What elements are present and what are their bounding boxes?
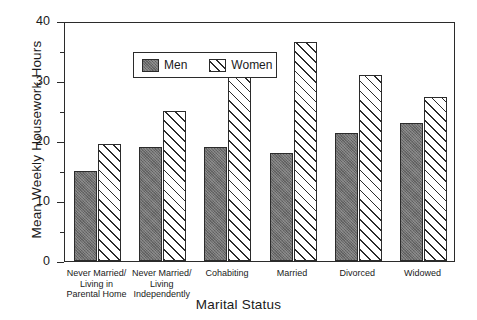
bar-men-2 — [204, 147, 227, 261]
y-tick-mark — [57, 82, 64, 83]
y-tick-label: 20 — [16, 135, 50, 147]
y-tick-mark — [57, 22, 64, 23]
bar-women-0 — [98, 144, 121, 261]
y-tick-mark — [57, 202, 64, 203]
legend-entry-women: Women — [209, 58, 272, 72]
legend-label-men: Men — [164, 58, 187, 72]
bar-women-2 — [228, 75, 251, 261]
bar-men-1 — [139, 147, 162, 261]
chart-figure: Mean Weekly Housework Hours 010203040 Me… — [0, 0, 477, 320]
bar-men-0 — [74, 171, 97, 261]
y-tick-mark — [57, 142, 64, 143]
bar-men-5 — [400, 123, 423, 261]
y-tick-label: 30 — [16, 75, 50, 87]
y-tick-label: 0 — [16, 255, 50, 267]
x-axis-title: Marital Status — [0, 297, 477, 312]
y-tick-label: 10 — [16, 195, 50, 207]
legend-swatch-women-icon — [209, 59, 226, 72]
x-tick-label: Widowed — [384, 268, 461, 279]
y-tick-label: 40 — [16, 15, 50, 27]
bar-women-1 — [163, 111, 186, 261]
chart-legend: Men Women — [133, 52, 277, 78]
bar-women-5 — [424, 97, 447, 261]
bar-men-3 — [270, 153, 293, 261]
bar-men-4 — [335, 133, 358, 261]
bar-women-3 — [294, 42, 317, 261]
y-tick-mark — [57, 262, 64, 263]
plot-area: Men Women — [64, 22, 455, 262]
legend-entry-men: Men — [142, 58, 187, 72]
bar-women-4 — [359, 75, 382, 261]
legend-label-women: Women — [231, 58, 272, 72]
legend-swatch-men-icon — [142, 59, 159, 72]
